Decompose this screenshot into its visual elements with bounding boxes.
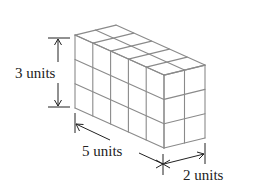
width-label: 2 units [183, 167, 224, 183]
cube-prism-diagram: 3 units 5 units 2 units [0, 0, 259, 191]
length-label: 5 units [82, 143, 123, 159]
unit-cube-grid [75, 25, 205, 148]
height-label: 3 units [15, 65, 56, 81]
